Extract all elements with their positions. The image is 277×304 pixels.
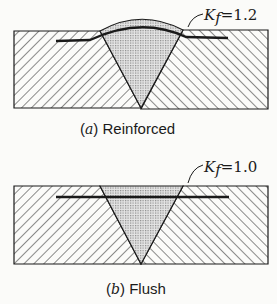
weld-diagram: Kf=1.2 (a) Reinforced Kf=1.0 (b) Flush [0,0,277,304]
figure-reinforced: Kf=1.2 (a) Reinforced [14,6,268,137]
label-leader [188,14,203,27]
kf-label-b: Kf=1.0 [203,158,257,179]
caption-b: (b) Flush [106,280,166,297]
label-leader [188,165,203,183]
figure-flush: Kf=1.0 (b) Flush [14,158,268,297]
caption-a: (a) Reinforced [80,120,175,137]
kf-label-a: Kf=1.2 [203,6,257,27]
